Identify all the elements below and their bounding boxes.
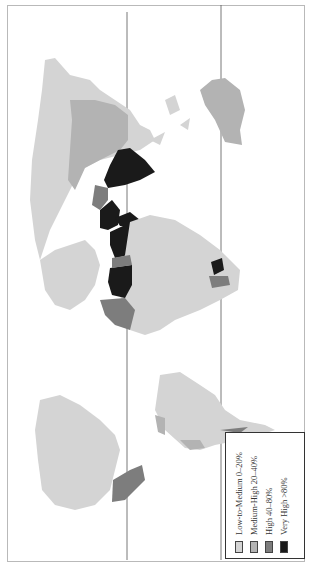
region-se-asia <box>150 95 190 145</box>
legend-item-high: High 40–80% <box>264 488 274 553</box>
legend-label: High 40–80% <box>264 488 274 535</box>
region-mexico <box>112 465 145 502</box>
legend-label: Very High >80% <box>279 477 289 535</box>
legend-item-very-high: Very High >80% <box>279 477 289 553</box>
legend-label: Medium-High 20–40% <box>249 456 259 535</box>
legend-item-medium-high: Medium-High 20–40% <box>249 456 259 553</box>
region-europe <box>40 240 100 310</box>
legend-swatch-medium-high <box>250 541 258 553</box>
legend-swatch-low-medium <box>235 541 243 553</box>
legend-swatch-very-high <box>280 541 288 553</box>
legend: Low-to-Medium 0–20% Medium-High 20–40% H… <box>225 432 305 559</box>
region-north-america <box>35 395 120 510</box>
legend-label: Low-to-Medium 0–20% <box>234 452 244 535</box>
legend-swatch-high <box>265 541 273 553</box>
legend-item-low-medium: Low-to-Medium 0–20% <box>234 452 244 553</box>
region-australia <box>200 78 245 145</box>
